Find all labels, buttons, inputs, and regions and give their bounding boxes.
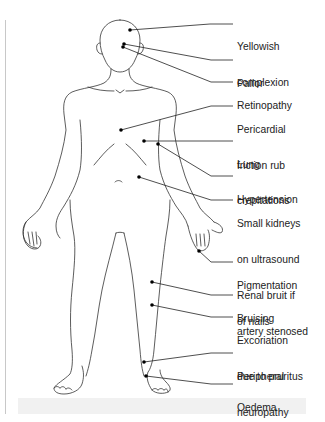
marker-dot-oedema [144,374,148,378]
leader-line-pallor [124,44,233,60]
marker-dot-lung-crepitations [142,139,146,143]
marker-dot-peripheral-neuropathy [142,360,146,364]
leader-line-hypertension [158,144,233,176]
leader-line-excoriation [152,305,233,317]
label-oedema: Oedema [237,378,277,422]
marker-dot-retinopathy [121,45,125,49]
leader-line-pericardial-friction-rub [121,106,233,130]
leader-line-pigmentation-of-nails [199,251,233,262]
marker-dot-yellowish-complexion [128,28,132,32]
marker-dot-pigmentation-of-nails [197,249,201,253]
leader-line-yellowish-complexion [130,24,233,30]
leader-line-retinopathy [123,47,233,82]
marker-dot-bruising [150,280,154,284]
marker-dot-pericardial-friction-rub [119,128,123,132]
marker-dot-small-kidneys [137,175,141,179]
leader-line-small-kidneys [139,177,233,200]
marker-dot-excoriation [150,303,154,307]
leader-line-bruising [152,282,233,295]
leader-line-peripheral-neuropathy [144,353,233,362]
leader-line-oedema [146,376,233,384]
marker-dot-hypertension [156,142,160,146]
